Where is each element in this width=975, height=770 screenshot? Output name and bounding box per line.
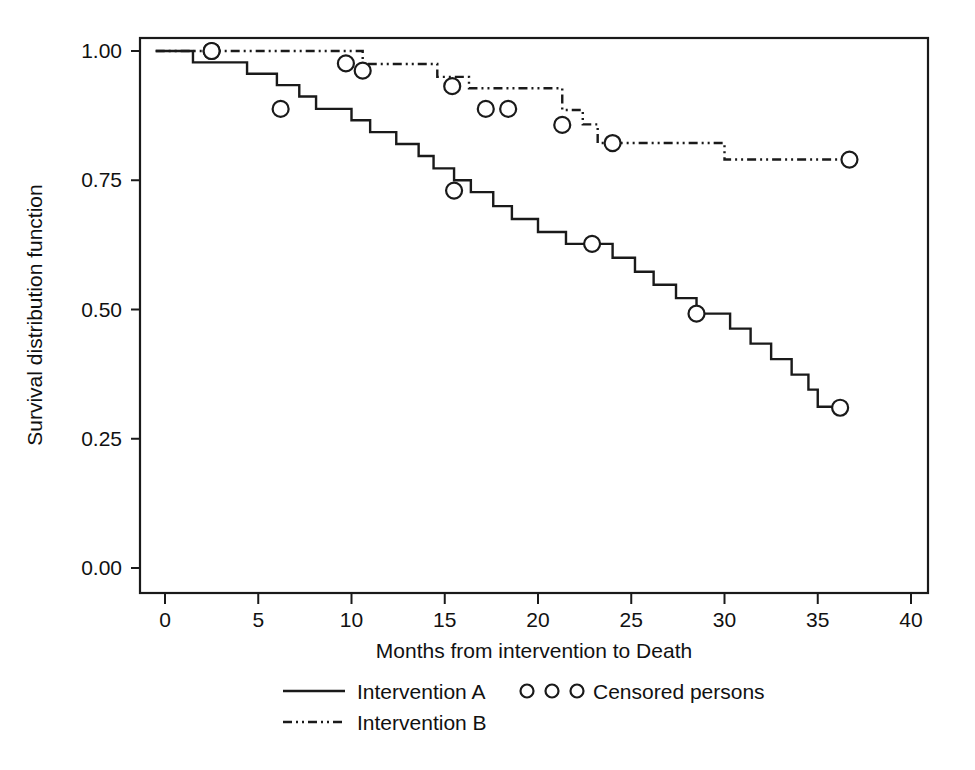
- curve-intervention-a: [156, 51, 840, 407]
- survival-chart-figure: 0.000.250.500.751.00 0510152025303540 Mo…: [0, 0, 975, 770]
- y-tick-label: 0.00: [81, 556, 122, 579]
- x-tick-label: 5: [252, 608, 264, 631]
- x-tick-label: 40: [899, 608, 922, 631]
- censored-marker: [204, 43, 220, 59]
- legend-swatch-censored-icon: [521, 685, 584, 698]
- censored-marker: [478, 101, 494, 117]
- legend-label-censored-persons: Censored persons: [593, 680, 765, 703]
- y-tick-label: 1.00: [81, 39, 122, 62]
- x-tick-label: 0: [159, 608, 171, 631]
- censored-markers: [204, 43, 858, 416]
- y-tick-label: 0.75: [81, 168, 122, 191]
- censored-marker: [444, 78, 460, 94]
- censored-marker: [355, 63, 371, 79]
- x-tick-label: 30: [713, 608, 736, 631]
- x-tick-label: 25: [620, 608, 643, 631]
- x-tick-label: 10: [340, 608, 363, 631]
- x-axis-title: Months from intervention to Death: [376, 639, 692, 662]
- legend-label-intervention-a: Intervention A: [357, 680, 485, 703]
- y-axis-ticks: 0.000.250.500.751.00: [81, 39, 140, 579]
- censored-marker: [584, 236, 600, 252]
- x-axis-ticks: 0510152025303540: [159, 593, 923, 631]
- censored-marker: [841, 152, 857, 168]
- censored-marker: [689, 306, 705, 322]
- censored-marker: [446, 183, 462, 199]
- x-tick-label: 20: [526, 608, 549, 631]
- chart-legend: Intervention A Intervention B Censored p…: [283, 680, 765, 734]
- censored-marker: [273, 101, 289, 117]
- censored-marker: [832, 400, 848, 416]
- x-tick-label: 35: [806, 608, 829, 631]
- legend-label-intervention-b: Intervention B: [357, 711, 487, 734]
- y-tick-label: 0.25: [81, 427, 122, 450]
- y-axis-title: Survival distribution function: [23, 184, 46, 445]
- y-tick-label: 0.50: [81, 298, 122, 321]
- censored-marker: [554, 117, 570, 133]
- survival-chart-svg: 0.000.250.500.751.00 0510152025303540 Mo…: [0, 0, 975, 770]
- censored-marker: [338, 55, 354, 71]
- censored-marker: [605, 135, 621, 151]
- x-tick-label: 15: [433, 608, 456, 631]
- plot-frame: [140, 38, 928, 593]
- censored-marker: [500, 101, 516, 117]
